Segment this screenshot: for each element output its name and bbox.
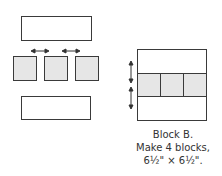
caption-size: 6½" × 6½".	[128, 154, 218, 167]
finished-block-square-3	[183, 73, 207, 97]
finished-block-square-1	[137, 73, 161, 97]
square-piece-2	[44, 56, 68, 81]
caption-quantity: Make 4 blocks,	[128, 141, 218, 154]
finished-block-square-2	[160, 73, 184, 97]
square-piece-3	[75, 56, 99, 81]
block-caption: Block B. Make 4 blocks, 6½" × 6½".	[128, 128, 218, 167]
bottom-rectangle-piece	[21, 96, 91, 120]
caption-title: Block B.	[128, 128, 218, 141]
top-rectangle-piece	[21, 16, 92, 41]
square-piece-1	[13, 56, 37, 81]
press-vertical-arrows-icon	[127, 60, 137, 120]
